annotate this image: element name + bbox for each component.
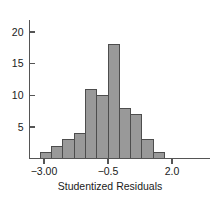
y-tick-label: 10 bbox=[12, 89, 24, 101]
histogram-bar bbox=[108, 45, 119, 159]
histogram-bar bbox=[52, 146, 63, 159]
histogram-bar bbox=[153, 152, 164, 158]
histogram-bar bbox=[142, 140, 153, 159]
x-tick-label: 2.0 bbox=[165, 165, 180, 177]
histogram-chart: 5101520 −3.00−0.52.0 Studentized Residua… bbox=[0, 0, 218, 197]
bars-group bbox=[40, 45, 164, 159]
histogram-bar bbox=[85, 89, 96, 159]
x-tick-label: −0.5 bbox=[98, 165, 119, 177]
histogram-bar bbox=[97, 95, 108, 158]
histogram-bar bbox=[74, 133, 85, 158]
x-tick-group: −3.00−0.52.0 bbox=[31, 159, 180, 177]
y-tick-label: 20 bbox=[12, 26, 24, 38]
x-axis-title: Studentized Residuals bbox=[58, 180, 162, 192]
chart-canvas: 5101520 −3.00−0.52.0 Studentized Residua… bbox=[0, 0, 218, 197]
y-tick-label: 5 bbox=[18, 121, 24, 133]
histogram-bar bbox=[131, 114, 142, 158]
y-tick-label: 15 bbox=[12, 57, 24, 69]
histogram-bar bbox=[63, 140, 74, 159]
histogram-bar bbox=[119, 108, 130, 159]
histogram-bar bbox=[40, 152, 51, 158]
x-tick-label: −3.00 bbox=[31, 165, 58, 177]
y-tick-group: 5101520 bbox=[12, 26, 35, 133]
